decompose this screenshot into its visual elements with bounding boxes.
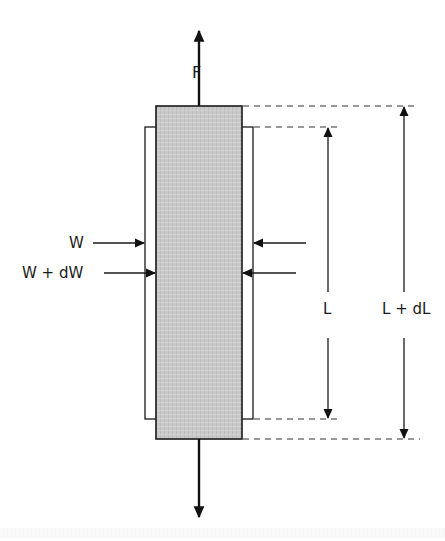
- width-deformed-label: W + dW: [22, 266, 83, 281]
- force-label: F: [192, 65, 201, 81]
- scan-artifact-band: [0, 528, 445, 538]
- deformed-specimen: [156, 106, 242, 439]
- diagram-canvas: F W W + dW L L + dL: [0, 0, 445, 541]
- length-original-label: L: [323, 302, 331, 317]
- width-original-label: W: [69, 236, 84, 251]
- length-deformed-label: L + dL: [382, 302, 430, 317]
